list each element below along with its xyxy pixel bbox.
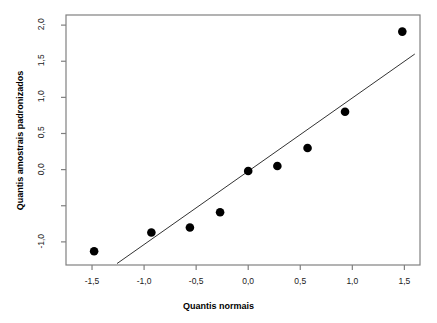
data-point [147, 228, 156, 237]
y-tick-label: 0,5 [37, 118, 46, 148]
data-point [186, 223, 195, 232]
data-point [341, 108, 350, 117]
x-tick-label: 1,5 [384, 277, 424, 286]
data-point [303, 144, 312, 153]
data-point [90, 247, 99, 256]
qq-reference-line [117, 54, 415, 264]
qq-plot-figure: -1,5-1,0-0,50,00,51,01,5 2,01,51,00,50,0… [0, 0, 437, 323]
data-point-group [90, 27, 407, 255]
x-tick-label: -1,0 [124, 277, 164, 286]
data-point [273, 162, 282, 171]
y-tick-label: -1,0 [37, 226, 46, 256]
x-tick-label: 0,0 [228, 277, 268, 286]
y-axis-title: Quantis amostrais padronizados [16, 41, 25, 241]
plot-canvas [0, 0, 437, 323]
x-axis-title: Quantis normais [0, 302, 437, 311]
y-tick-label: 1,5 [37, 45, 46, 75]
x-tick-label: 0,5 [280, 277, 320, 286]
data-point [398, 27, 407, 36]
y-tick-label: 0,0 [37, 154, 46, 184]
x-tick-label: -0,5 [176, 277, 216, 286]
plot-border [66, 15, 420, 265]
axis-tick-marks [61, 25, 404, 270]
data-point [244, 167, 253, 176]
x-tick-label: -1,5 [72, 277, 112, 286]
reference-line [117, 54, 415, 264]
x-tick-label: 1,0 [332, 277, 372, 286]
data-point [216, 208, 225, 217]
y-tick-label: 2,0 [37, 9, 46, 39]
y-tick-label: 1,0 [37, 82, 46, 112]
plot-frame [66, 15, 420, 265]
